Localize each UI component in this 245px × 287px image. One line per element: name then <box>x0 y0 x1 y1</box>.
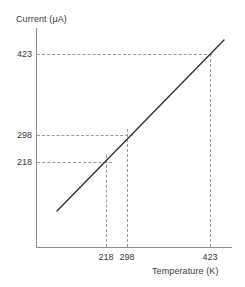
x-axis-title: Temperature (K) <box>152 266 219 276</box>
data-line-svg <box>0 0 245 287</box>
chart-figure: Current (μA) 423 298 218 218 298 423 Tem… <box>0 0 245 287</box>
y-tick-label-218: 218 <box>2 157 32 167</box>
x-tick-label-298: 298 <box>112 252 142 262</box>
y-tick-label-298: 298 <box>2 130 32 140</box>
y-tick-label-423: 423 <box>2 49 32 59</box>
x-tick-label-423: 423 <box>195 252 225 262</box>
